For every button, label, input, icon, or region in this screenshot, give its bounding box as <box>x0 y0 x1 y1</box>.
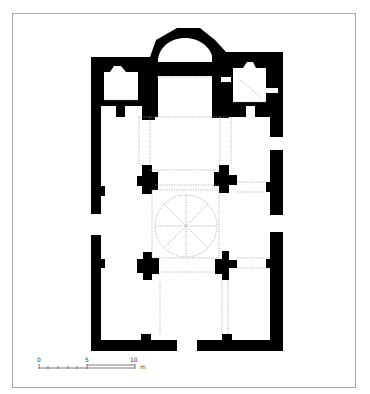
ne-chamber <box>215 52 283 118</box>
scale-label-5: 5 <box>85 357 89 363</box>
floor-plan <box>0 0 370 394</box>
nw-chamber <box>91 57 155 120</box>
walls <box>91 52 283 351</box>
scale-label-0: 0 <box>37 357 41 363</box>
scale-bar <box>39 364 135 369</box>
scale-label-10: 10 <box>130 357 138 363</box>
scale-unit: m <box>140 364 146 370</box>
piers <box>137 165 237 280</box>
